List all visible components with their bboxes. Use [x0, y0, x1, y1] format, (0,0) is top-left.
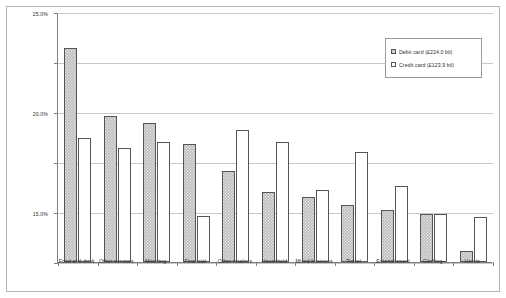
legend-label-credit: Credit card (£123.9 bil) — [399, 62, 454, 68]
bar-credit[interactable] — [276, 142, 289, 262]
bar-group — [143, 12, 170, 262]
bar-debit[interactable] — [143, 123, 156, 262]
y-axis-tick: 20.0% — [54, 63, 58, 64]
chart-legend[interactable]: Debit card (£224.0 bil) Credit card (£12… — [385, 38, 482, 78]
legend-label-debit: Debit card (£224.0 bil) — [399, 49, 452, 55]
y-axis-tick: 5.0% — [54, 213, 58, 214]
bar-debit[interactable] — [183, 144, 196, 262]
bar-credit[interactable] — [355, 152, 368, 262]
bar-group — [262, 12, 289, 262]
bar-debit[interactable] — [302, 197, 315, 262]
bar-debit[interactable] — [420, 214, 433, 262]
bar-credit[interactable] — [474, 217, 487, 262]
y-axis-tick-label: 15.0% — [33, 211, 48, 217]
y-axis-tick: 10.0% — [54, 163, 58, 164]
bar-credit[interactable] — [78, 138, 91, 262]
legend-item-debit[interactable]: Debit card (£224.0 bil) — [391, 45, 476, 58]
bar-credit[interactable] — [197, 216, 210, 262]
bar-credit[interactable] — [395, 186, 408, 262]
bar-credit[interactable] — [118, 148, 131, 262]
bar-credit[interactable] — [434, 214, 447, 262]
bar-group — [341, 12, 368, 262]
bar-group — [302, 12, 329, 262]
y-axis-tick-label: 20.0% — [33, 111, 48, 117]
bar-group — [104, 12, 131, 262]
bar-debit[interactable] — [341, 205, 354, 262]
y-axis-tick: 25.0% — [54, 13, 58, 14]
legend-item-credit[interactable]: Credit card (£123.9 bil) — [391, 58, 476, 71]
y-axis-tick: 15.0% — [54, 113, 58, 114]
x-axis-label: Hotels — [442, 258, 502, 266]
bar-group — [64, 12, 91, 262]
bar-group — [183, 12, 210, 262]
legend-swatch-credit-icon — [391, 62, 396, 67]
bar-group — [222, 12, 249, 262]
bar-debit[interactable] — [64, 48, 77, 262]
legend-swatch-debit-icon — [391, 49, 396, 54]
bar-debit[interactable] — [381, 210, 394, 262]
bar-credit[interactable] — [236, 130, 249, 262]
y-axis-tick-label: 25.0% — [33, 11, 48, 17]
bar-credit[interactable] — [157, 142, 170, 262]
bar-debit[interactable] — [104, 116, 117, 262]
chart-screenshot: 0.0%5.0%10.0%15.0%20.0%25.0% Food and dr… — [0, 0, 506, 298]
bar-debit[interactable] — [222, 171, 235, 262]
bar-credit[interactable] — [316, 190, 329, 262]
bar-debit[interactable] — [262, 192, 275, 262]
